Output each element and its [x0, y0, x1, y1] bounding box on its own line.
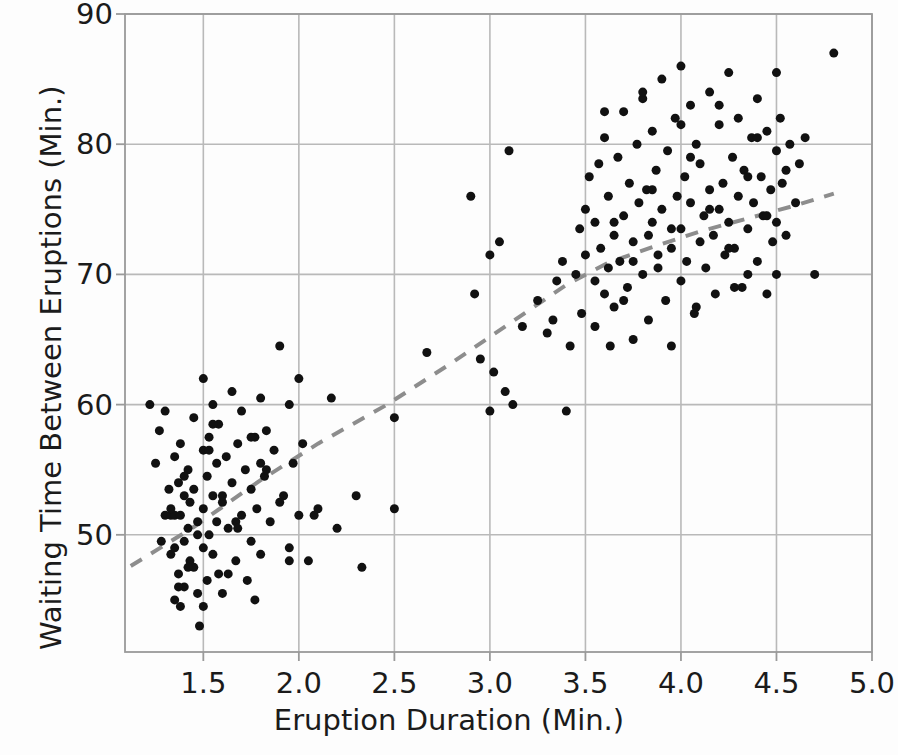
plot-canvas [0, 0, 898, 755]
data-point [701, 263, 710, 272]
x-tick-label: 5.0 [849, 666, 895, 700]
data-point [208, 400, 217, 409]
data-point [208, 420, 217, 429]
data-point [184, 563, 193, 572]
data-point [176, 511, 185, 520]
data-point [749, 198, 758, 207]
data-point [256, 550, 265, 559]
data-point [180, 472, 189, 481]
data-point [151, 459, 160, 468]
data-point [667, 244, 676, 253]
data-point [495, 237, 504, 246]
data-point [772, 270, 781, 279]
data-point [533, 296, 542, 305]
data-point [676, 62, 685, 71]
data-point [682, 257, 691, 266]
data-point [485, 250, 494, 259]
data-point [164, 485, 173, 494]
data-point [638, 88, 647, 97]
data-point [619, 107, 628, 116]
data-point [180, 537, 189, 546]
data-point [577, 309, 586, 318]
data-point [218, 589, 227, 598]
y-tick-label: 50 [76, 518, 113, 552]
data-point [422, 348, 431, 357]
data-point [205, 530, 214, 539]
x-tick-label: 4.0 [658, 666, 704, 700]
data-point [606, 342, 615, 351]
data-point [224, 569, 233, 578]
data-point [247, 485, 256, 494]
data-point [585, 172, 594, 181]
data-point [285, 556, 294, 565]
data-point [184, 524, 193, 533]
data-point [294, 511, 303, 520]
data-point [250, 595, 259, 604]
data-point [157, 537, 166, 546]
data-point [795, 159, 804, 168]
data-point [231, 556, 240, 565]
data-point [199, 602, 208, 611]
data-point [218, 491, 227, 500]
data-point [548, 315, 557, 324]
data-point [518, 322, 527, 331]
data-point [610, 302, 619, 311]
data-point [505, 146, 514, 155]
y-tick-label: 60 [76, 388, 113, 422]
data-point [590, 218, 599, 227]
data-point [558, 257, 567, 266]
data-point [252, 504, 261, 513]
data-point [772, 146, 781, 155]
data-point [724, 218, 733, 227]
y-axis-title: Waiting Time Between Eruptions (Min.) [34, 85, 68, 650]
data-point [581, 205, 590, 214]
data-point [768, 237, 777, 246]
data-point [596, 244, 605, 253]
data-point [762, 127, 771, 136]
data-point [663, 146, 672, 155]
data-point [212, 459, 221, 468]
data-point [203, 576, 212, 585]
data-point [644, 315, 653, 324]
data-point [724, 68, 733, 77]
x-tick-label: 3.0 [467, 666, 513, 700]
x-tick-label: 2.5 [371, 666, 417, 700]
data-point [243, 576, 252, 585]
data-point [715, 101, 724, 110]
data-point [629, 237, 638, 246]
data-point [757, 172, 766, 181]
data-point [772, 218, 781, 227]
data-point [613, 153, 622, 162]
x-tick-label: 3.5 [562, 666, 608, 700]
data-point [543, 329, 552, 338]
data-point [227, 387, 236, 396]
data-point [174, 582, 183, 591]
data-point [199, 543, 208, 552]
data-points [145, 49, 838, 631]
data-point [270, 446, 279, 455]
data-point [590, 276, 599, 285]
data-point [772, 68, 781, 77]
data-point [619, 296, 628, 305]
data-point [705, 88, 714, 97]
data-point [776, 114, 785, 123]
data-point [212, 517, 221, 526]
data-point [193, 530, 202, 539]
data-point [657, 75, 666, 84]
data-point [489, 368, 498, 377]
data-point [247, 433, 256, 442]
data-point [604, 263, 613, 272]
data-point [176, 439, 185, 448]
data-point [575, 224, 584, 233]
data-point [294, 374, 303, 383]
data-point [333, 524, 342, 533]
data-point [661, 296, 670, 305]
data-point [734, 114, 743, 123]
data-point [357, 563, 366, 572]
data-point [728, 153, 737, 162]
data-point [709, 231, 718, 240]
data-point [648, 218, 657, 227]
data-point [161, 407, 170, 416]
data-point [724, 244, 733, 253]
x-tick-label: 1.5 [180, 666, 226, 700]
